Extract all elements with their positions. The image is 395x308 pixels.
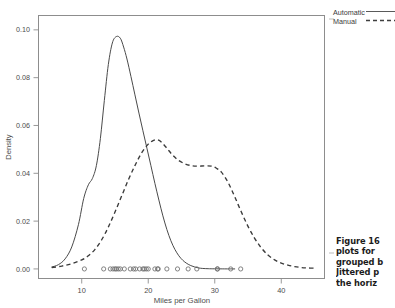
x-tick-label: 40 bbox=[277, 286, 285, 295]
caption-line-5: the horiz bbox=[336, 278, 395, 288]
legend-label-automatic: Automatic bbox=[333, 8, 365, 17]
y-axis-title: Density bbox=[4, 134, 13, 160]
legend-label-manual: Manual bbox=[333, 17, 365, 26]
legend: Automatic Manual bbox=[333, 8, 365, 26]
caption-line-4: Jittered p bbox=[336, 267, 395, 277]
caption-line-3: grouped b bbox=[336, 257, 395, 267]
x-tick-label: 20 bbox=[144, 286, 152, 295]
y-tick-label: 0.04 bbox=[16, 169, 30, 178]
x-tick-label: 10 bbox=[78, 286, 86, 295]
y-tick-label: 0.10 bbox=[16, 25, 30, 34]
x-tick-label: 30 bbox=[211, 286, 219, 295]
x-axis-title: Miles per Gallon bbox=[154, 296, 210, 305]
y-tick-label: 0.08 bbox=[16, 73, 30, 82]
caption-line-1: Figure 16 bbox=[336, 236, 395, 246]
y-tick-label: 0.06 bbox=[16, 121, 30, 130]
y-tick-label: 0.02 bbox=[16, 217, 30, 226]
caption-line-2: plots for bbox=[336, 246, 395, 256]
y-tick-label: 0.00 bbox=[16, 265, 30, 274]
figure-caption: Figure 16 plots for grouped b Jittered p… bbox=[336, 236, 395, 308]
